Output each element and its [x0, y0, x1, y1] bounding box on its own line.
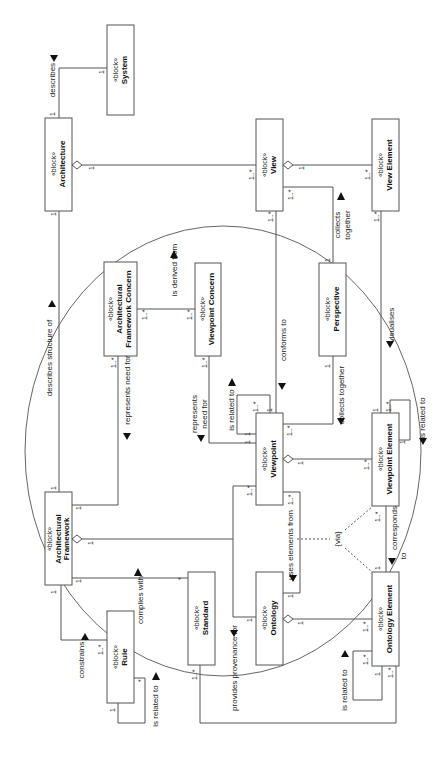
svg-text:1: 1: [374, 672, 381, 676]
svg-text:Perspective: Perspective: [332, 286, 341, 331]
svg-text:1: 1: [98, 70, 105, 74]
block-rule[interactable]: «block» Rule: [107, 611, 134, 703]
svg-text:Standard: Standard: [201, 601, 210, 636]
label-oe-is-related-to: is related to: [340, 669, 349, 711]
sysml-block-diagram: «block» System «block» Architecture «blo…: [0, 0, 447, 784]
label-collects: collects: [333, 212, 342, 239]
aggregation-diamond-icon: [283, 455, 293, 463]
block-perspective[interactable]: «block» Perspective: [319, 263, 346, 356]
block-view[interactable]: «block» View: [256, 119, 283, 211]
direction-arrow-icon: [386, 341, 394, 348]
svg-text:Ontology: Ontology: [269, 600, 278, 636]
svg-text:«block»: «block»: [112, 58, 119, 82]
block-architectural-framework-concern[interactable]: «block» Architectural Framework Concern: [104, 262, 137, 356]
svg-text:1: 1: [75, 506, 82, 510]
aggregation-diamond-icon: [72, 161, 82, 169]
svg-text:1: 1: [50, 590, 57, 594]
represents-need-for-connector: [72, 356, 118, 505]
block-view-element[interactable]: «block» View Element: [372, 119, 399, 211]
label-uses-elements-from: uses elements from: [286, 510, 295, 580]
svg-text:«block»: «block»: [50, 152, 57, 176]
svg-text:System: System: [120, 56, 129, 84]
aggregation-diamond-icon: [72, 535, 82, 543]
direction-arrow-icon: [278, 383, 286, 390]
block-architecture[interactable]: «block» Architecture: [45, 118, 72, 211]
svg-text:1: 1: [50, 212, 57, 216]
label-collects-together-vp: collects together: [337, 366, 346, 425]
label-describes: describes: [48, 63, 57, 97]
svg-text:1..*: 1..*: [97, 644, 104, 655]
af-viewpoint-aggregation: [82, 486, 256, 539]
label-to: to: [399, 552, 408, 559]
direction-arrow-icon: [123, 433, 131, 440]
svg-text:Framework: Framework: [62, 517, 71, 560]
svg-text:Rule: Rule: [120, 648, 129, 666]
label-provides-provenance-for: provides provenance for: [230, 625, 239, 711]
svg-text:1..*: 1..*: [252, 401, 259, 412]
svg-text:1: 1: [244, 440, 251, 444]
svg-text:1..*: 1..*: [141, 309, 148, 320]
svg-text:1: 1: [87, 541, 94, 545]
direction-arrow-icon: [197, 435, 205, 442]
svg-text:1..*: 1..*: [373, 211, 380, 222]
label-need-for: need for: [200, 399, 209, 429]
svg-text:1: 1: [372, 408, 379, 412]
via-dashed-upper: [345, 507, 372, 530]
svg-text:1..*: 1..*: [287, 189, 294, 200]
af-ontology-connector: [233, 539, 256, 617]
svg-text:1..*: 1..*: [364, 169, 371, 180]
block-ontology[interactable]: «block» Ontology: [256, 572, 283, 665]
label-rule-is-related-to: is related to: [151, 685, 160, 727]
label-vpe-is-related-to: is related to: [418, 397, 427, 439]
label-represents-need-for: represents need for: [123, 355, 132, 425]
svg-text:1: 1: [50, 486, 57, 490]
svg-text:1: 1: [109, 708, 116, 712]
direction-arrow-icon: [337, 192, 345, 200]
svg-text:1: 1: [75, 579, 82, 583]
block-viewpoint-element[interactable]: «block» Viewpoint Element: [372, 413, 399, 506]
label-together: together: [343, 210, 352, 240]
svg-text:«block»: «block»: [107, 297, 114, 321]
svg-text:1..*: 1..*: [385, 401, 392, 412]
svg-text:1..*: 1..*: [286, 425, 293, 436]
svg-text:«block»: «block»: [377, 607, 384, 631]
svg-text:«block»: «block»: [261, 447, 268, 471]
svg-text:1..*: 1..*: [191, 669, 198, 680]
svg-text:1..*: 1..*: [374, 511, 381, 522]
svg-text:Ontology Element: Ontology Element: [385, 584, 394, 653]
svg-text:«block»: «block»: [377, 153, 384, 177]
svg-text:1: 1: [297, 621, 304, 625]
block-standard[interactable]: «block» Standard: [188, 572, 215, 665]
block-viewpoint[interactable]: «block» Viewpoint: [256, 413, 283, 505]
direction-arrow-icon: [152, 672, 160, 680]
block-viewpoint-concern[interactable]: «block» Viewpoint Concern: [195, 263, 221, 356]
svg-text:1: 1: [297, 461, 304, 465]
describes-connector: [59, 68, 107, 118]
svg-text:1..*: 1..*: [248, 169, 255, 180]
svg-text:1..*: 1..*: [267, 211, 274, 222]
svg-text:1: 1: [399, 440, 406, 444]
svg-text:1..*: 1..*: [363, 459, 370, 470]
svg-text:Architecture: Architecture: [58, 140, 67, 188]
svg-text:View Element: View Element: [385, 139, 394, 191]
via-dashed-lower: [345, 548, 372, 572]
direction-arrow-icon: [50, 55, 58, 62]
svg-text:1..*: 1..*: [186, 309, 193, 320]
label-complies-with: complies with: [136, 576, 145, 624]
block-system[interactable]: «block» System: [107, 25, 134, 115]
label-constrains: constrains: [77, 642, 86, 678]
svg-text:Viewpoint: Viewpoint: [269, 440, 278, 478]
svg-text:«block»: «block»: [193, 606, 200, 630]
block-architectural-framework[interactable]: «block» Architectural Framework: [45, 492, 72, 585]
svg-text:1: 1: [298, 166, 305, 170]
block-ontology-element[interactable]: «block» Ontology Element: [372, 572, 399, 666]
svg-text:1: 1: [49, 112, 56, 116]
direction-arrow-icon: [228, 378, 236, 386]
svg-text:Viewpoint Concern: Viewpoint Concern: [207, 273, 216, 345]
svg-text:1: 1: [244, 432, 251, 436]
aggregation-diamond-icon: [283, 615, 293, 623]
svg-text:1..*: 1..*: [201, 357, 208, 368]
svg-text:«block»: «block»: [112, 645, 119, 669]
constrains-connector: [61, 585, 107, 640]
svg-text:1..*: 1..*: [362, 654, 369, 665]
